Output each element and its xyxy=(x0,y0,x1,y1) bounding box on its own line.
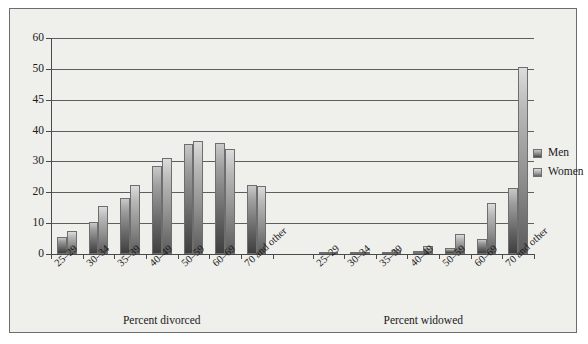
x-tick-mark xyxy=(51,254,52,259)
group-label: Percent widowed xyxy=(313,314,535,326)
gridline xyxy=(51,192,534,193)
bar-men-50–59 xyxy=(184,144,194,254)
y-axis-tick-label: 10 xyxy=(33,217,45,229)
chart-legend: MenWomen xyxy=(533,145,583,183)
legend-swatch-men-icon xyxy=(533,149,542,158)
x-tick-mark xyxy=(209,254,210,259)
gridline xyxy=(51,69,534,70)
x-tick-mark xyxy=(178,254,179,259)
legend-item-men: Men xyxy=(533,145,583,161)
x-tick-mark xyxy=(83,254,84,259)
group-label: Percent divorced xyxy=(51,314,273,326)
chart-figure: 605045403020100 MenWomen 25–2930–3435–39… xyxy=(0,0,588,344)
x-tick-mark xyxy=(114,254,115,259)
bar-women-70-and-other xyxy=(518,67,528,254)
legend-swatch-women-icon xyxy=(533,168,542,177)
y-axis-tick-label: 0 xyxy=(38,248,44,260)
y-axis-tick-label: 20 xyxy=(33,187,45,199)
legend-item-women: Women xyxy=(533,164,583,180)
y-axis-tick-label: 50 xyxy=(33,63,45,75)
bar-men-60–69 xyxy=(215,143,225,254)
y-axis-line xyxy=(51,38,52,256)
bar-women-50–59 xyxy=(193,141,203,254)
x-tick-mark xyxy=(376,254,377,259)
bar-men-70-and-other xyxy=(508,188,518,254)
gridline xyxy=(51,131,534,132)
chart-frame: 605045403020100 MenWomen 25–2930–3435–39… xyxy=(9,8,577,333)
gridline xyxy=(51,100,534,101)
legend-label: Women xyxy=(548,166,583,178)
x-tick-mark xyxy=(502,254,503,259)
bar-men-40–49 xyxy=(152,166,162,254)
bar-women-60–69 xyxy=(225,149,235,254)
bar-men-70-and-other xyxy=(247,185,257,254)
x-tick-mark xyxy=(146,254,147,259)
legend-label: Men xyxy=(548,147,569,159)
y-axis-tick-label: 60 xyxy=(33,32,45,44)
y-axis-tick-label: 40 xyxy=(33,125,45,137)
y-axis-tick-label: 30 xyxy=(33,156,45,168)
x-tick-mark xyxy=(313,254,314,259)
gridline xyxy=(51,161,534,162)
gridline xyxy=(51,38,534,39)
plot-area: 605045403020100 xyxy=(51,38,534,254)
x-tick-mark xyxy=(407,254,408,259)
x-tick-mark xyxy=(471,254,472,259)
x-tick-mark xyxy=(241,254,242,259)
x-tick-mark xyxy=(273,254,274,259)
x-tick-mark xyxy=(344,254,345,259)
x-tick-mark xyxy=(534,254,535,259)
x-tick-mark xyxy=(439,254,440,259)
bar-women-40–49 xyxy=(162,158,172,254)
bar-men-35–39 xyxy=(120,198,130,254)
y-axis-tick-label: 45 xyxy=(33,94,45,106)
